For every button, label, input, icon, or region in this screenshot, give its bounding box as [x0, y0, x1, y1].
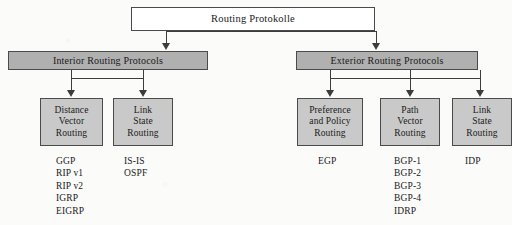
protocol-item: EGP [318, 155, 336, 167]
protocol-item: IDP [465, 155, 481, 167]
node-label: Routing Protokolle [211, 13, 295, 25]
node-label-line-1: Distance [54, 105, 88, 116]
arrowhead-exterior-to-path-vector [406, 90, 414, 97]
node-label-line-2: Vector [59, 116, 84, 127]
protocol-item: IS-IS [124, 155, 147, 167]
protocol-item: BGP-4 [394, 192, 421, 204]
node-label-line-2: State [472, 116, 492, 127]
node-label: Interior Routing Protocols [53, 55, 163, 67]
node-interior-routing-protocols: Interior Routing Protocols [8, 51, 208, 70]
node-link-state-routing-interior: Link State Routing [113, 98, 173, 146]
protocol-list-path-vector-routing: BGP-1 BGP-2 BGP-3 BGP-4 IDRP [394, 155, 421, 217]
arrowhead-root-to-exterior [372, 43, 380, 50]
node-label-line-3: Routing [127, 128, 158, 139]
node-exterior-routing-protocols: Exterior Routing Protocols [296, 51, 478, 70]
node-label-line-1: Link [473, 105, 491, 116]
arrowhead-exterior-to-link-state [476, 90, 484, 97]
node-path-vector-routing: Path Vector Routing [380, 98, 440, 146]
connector-exterior-to-path-vector [410, 70, 411, 91]
node-label-line-1: Preference [309, 105, 351, 116]
connector-exterior-to-link-state [480, 70, 481, 91]
node-label-line-1: Link [134, 105, 152, 116]
arrowhead-interior-to-distance-vector [67, 90, 75, 97]
arrowhead-interior-to-link-state [139, 90, 147, 97]
node-label-line-3: Routing [56, 128, 87, 139]
protocol-item: GGP [56, 155, 84, 167]
protocol-item: RIP v2 [56, 180, 84, 192]
connector-interior-horizontal [71, 78, 143, 79]
connector-root-horizontal [166, 31, 376, 32]
protocol-item: IGRP [56, 192, 84, 204]
node-label-line-3: Routing [466, 128, 497, 139]
arrowhead-root-to-interior [162, 43, 170, 50]
protocol-list-preference-and-policy-routing: EGP [318, 155, 336, 167]
node-link-state-routing-exterior: Link State Routing [452, 98, 512, 146]
node-label-line-3: Routing [394, 128, 425, 139]
arrowhead-exterior-to-preference-policy [326, 90, 334, 97]
node-preference-and-policy-routing: Preference and Policy Routing [297, 98, 363, 146]
connector-interior-to-distance-vector [71, 70, 72, 91]
node-label-line-2: State [133, 116, 153, 127]
protocol-item: BGP-1 [394, 155, 421, 167]
node-label-line-1: Path [401, 105, 418, 116]
node-label-line-2: and Policy [309, 116, 350, 127]
node-routing-protokolle: Routing Protokolle [131, 7, 375, 31]
node-label: Exterior Routing Protocols [331, 55, 444, 67]
node-distance-vector-routing: Distance Vector Routing [40, 98, 103, 146]
connector-exterior-to-preference-policy [330, 70, 331, 91]
protocol-item: RIP v1 [56, 167, 84, 179]
protocol-item: IDRP [394, 205, 421, 217]
node-label-line-3: Routing [314, 128, 345, 139]
protocol-list-distance-vector-routing: GGP RIP v1 RIP v2 IGRP EIGRP [56, 155, 84, 217]
protocol-item: BGP-2 [394, 167, 421, 179]
protocol-item: BGP-3 [394, 180, 421, 192]
connector-exterior-horizontal [330, 78, 480, 79]
protocol-list-link-state-routing-interior: IS-IS OSPF [124, 155, 147, 180]
protocol-item: OSPF [124, 167, 147, 179]
connector-interior-to-link-state [143, 70, 144, 91]
node-label-line-2: Vector [397, 116, 422, 127]
protocol-list-link-state-routing-exterior: IDP [465, 155, 481, 167]
protocol-item: EIGRP [56, 205, 84, 217]
